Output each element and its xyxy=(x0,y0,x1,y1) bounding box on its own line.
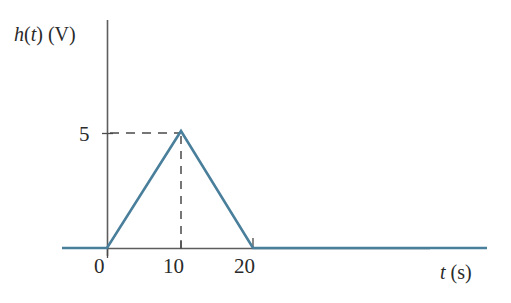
signal-trace-h-of-t xyxy=(62,131,487,248)
plot-svg xyxy=(0,0,511,303)
y-axis-label: h(t) (V) xyxy=(14,24,76,44)
y-axis-label-unit: (V) xyxy=(48,23,76,45)
x-tick-label-0: 0 xyxy=(94,256,105,277)
x-tick-label-10: 10 xyxy=(163,256,184,277)
figure-container: h(t) (V) t (s) 5 0 10 20 xyxy=(0,0,511,303)
x-tick-label-20: 20 xyxy=(234,256,255,277)
y-axis-label-paren-close: ) xyxy=(36,23,43,45)
y-axis-label-func: h xyxy=(14,23,24,45)
x-axis-label-unit: (s) xyxy=(451,261,472,283)
x-axis-label: t (s) xyxy=(440,262,472,282)
x-axis-label-var: t xyxy=(440,261,446,283)
y-tick-label-5: 5 xyxy=(79,124,90,145)
y-axis-label-paren-open: ( xyxy=(24,23,31,45)
